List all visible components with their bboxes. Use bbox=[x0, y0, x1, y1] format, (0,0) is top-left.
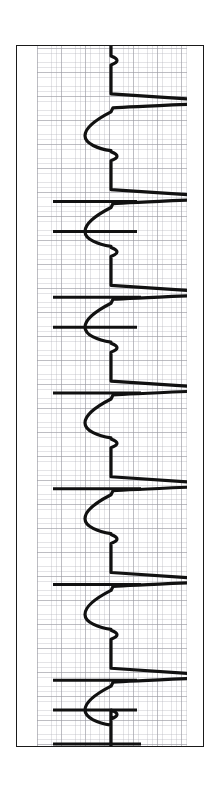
ecg-trace-path-group bbox=[85, 46, 187, 746]
ecg-grid-paper bbox=[37, 46, 187, 746]
ecg-chart-frame bbox=[16, 45, 204, 747]
page-root bbox=[0, 0, 221, 792]
ecg-trace-path bbox=[85, 46, 187, 746]
ecg-waveform-svg bbox=[37, 46, 187, 746]
ecg-caliper-group bbox=[53, 202, 141, 744]
top-caption bbox=[6, 0, 136, 9]
ecg-trace-layer bbox=[37, 46, 187, 746]
